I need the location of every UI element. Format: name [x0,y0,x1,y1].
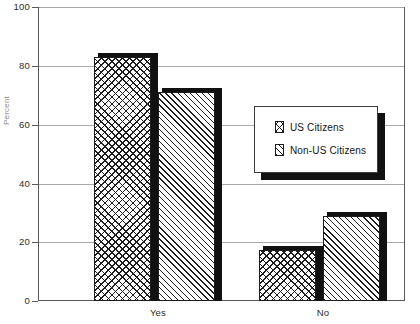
legend-item-us-citizens: US Citizens [275,121,344,133]
gridline-100 [39,7,404,8]
legend-label-us-citizens: US Citizens [290,122,344,133]
y-tick-mark-100 [32,7,38,8]
y-tick-mark-60 [32,125,38,126]
bar-side-face-no-us [315,246,323,301]
legend-label-non-us-citizens: Non-US Citizens [290,145,366,156]
legend-box: US Citizens Non-US Citizens [254,106,378,173]
bar-chart: Percent 100 80 60 40 20 0 Yes No US Citi… [0,0,420,324]
y-tick-label-80: 80 [0,60,30,71]
x-tick-label-yes: Yes [128,307,188,318]
y-tick-label-100: 100 [0,1,30,12]
bar-side-face-no-nonus [379,212,387,301]
bar-no-us-citizens [259,250,316,301]
bar-no-non-us-citizens [323,216,380,301]
bar-side-face-yes-us [150,53,158,301]
y-tick-mark-80 [32,66,38,67]
y-tick-mark-20 [32,242,38,243]
x-tick-label-no: No [293,307,353,318]
y-tick-mark-0 [32,301,38,302]
y-tick-mark-40 [32,184,38,185]
legend-swatch-cross-hatch-icon [275,121,284,133]
y-tick-label-0: 0 [0,295,30,306]
legend-swatch-diagonal-hatch-icon [275,144,284,156]
y-tick-label-20: 20 [0,236,30,247]
y-tick-label-40: 40 [0,178,30,189]
y-axis-title: Percent [2,81,11,141]
legend-item-non-us-citizens: Non-US Citizens [275,144,366,156]
bar-side-face-yes-nonus [214,88,222,301]
bar-yes-us-citizens [94,57,151,301]
bar-yes-non-us-citizens [158,92,215,301]
y-tick-label-60: 60 [0,119,30,130]
